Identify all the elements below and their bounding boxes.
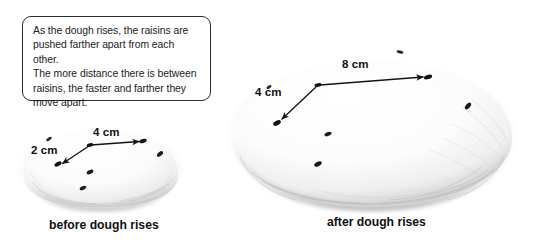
measure-label-4cm-after: 4 cm bbox=[255, 86, 282, 98]
raisin bbox=[313, 160, 322, 167]
dough-after-body bbox=[232, 61, 512, 205]
measure-label-2cm-before: 2 cm bbox=[31, 144, 58, 156]
raisin-right-after bbox=[423, 74, 432, 81]
dough-before-rises bbox=[21, 129, 181, 211]
explanation-line-3: The more distance there is between bbox=[33, 67, 201, 81]
raisin-lowerleft-after bbox=[272, 119, 281, 127]
raisins-before bbox=[46, 136, 164, 191]
arrow-8cm-after bbox=[320, 77, 423, 85]
explanation-line-2: pushed farther apart from each other. bbox=[33, 38, 201, 67]
caption-before-dough-rises: before dough rises bbox=[49, 218, 159, 232]
measure-label-4cm-before: 4 cm bbox=[93, 126, 120, 138]
raisin-vertex-before bbox=[86, 143, 93, 148]
dough-after-rises bbox=[230, 50, 514, 211]
raisin-vertex-after bbox=[314, 82, 322, 87]
measure-label-8cm-after: 8 cm bbox=[342, 58, 369, 70]
arrow-4cm-after bbox=[282, 87, 316, 119]
raisin bbox=[156, 150, 164, 158]
raisin bbox=[79, 185, 87, 191]
raisin bbox=[46, 136, 53, 142]
raisins-after bbox=[266, 50, 472, 168]
raisin-lowerleft-before bbox=[54, 160, 63, 167]
figure-canvas: As the dough rises, the raisins are push… bbox=[0, 0, 535, 241]
raisin bbox=[324, 131, 332, 137]
arrow-4cm-before bbox=[91, 142, 139, 146]
explanation-line-5: move apart. bbox=[33, 96, 201, 110]
explanation-text-box: As the dough rises, the raisins are push… bbox=[22, 16, 211, 101]
arrow-2cm-before bbox=[63, 146, 90, 164]
raisin bbox=[464, 102, 472, 111]
measure-arrows-after bbox=[282, 77, 423, 119]
explanation-line-1: As the dough rises, the raisins are bbox=[33, 24, 201, 38]
dough-before-body bbox=[24, 129, 178, 207]
raisin-right-before bbox=[139, 138, 147, 144]
measure-arrows-before bbox=[63, 142, 140, 164]
caption-after-dough-rises: after dough rises bbox=[327, 215, 426, 229]
raisin bbox=[396, 50, 403, 54]
raisin bbox=[86, 169, 94, 176]
explanation-line-4: raisins, the faster and farther they bbox=[33, 82, 201, 96]
